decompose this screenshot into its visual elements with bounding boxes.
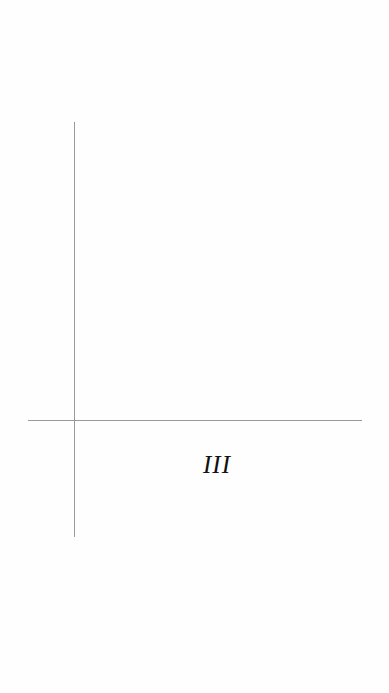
- vertical-axis-line: [74, 122, 75, 537]
- diagram-canvas: III: [0, 0, 389, 693]
- quadrant-label: III: [203, 452, 231, 477]
- horizontal-axis-line: [28, 420, 362, 421]
